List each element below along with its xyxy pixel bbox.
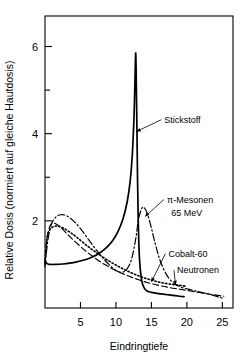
y-tick-label: 4 [32, 128, 38, 140]
annotation-label: π-Mesonen [167, 195, 213, 205]
y-axis-title: Relative Dosis (normiert auf gleiche Hau… [3, 61, 15, 280]
dose-depth-chart: 510152025 246 Stickstoffπ-Mesonen65 MeVC… [0, 0, 248, 362]
x-tick-label: 10 [110, 316, 122, 328]
annotation-label: Stickstoff [164, 115, 201, 125]
x-tick-label: 5 [77, 316, 83, 328]
x-tick-label: 20 [181, 316, 193, 328]
annotation-label: Neutronen [177, 265, 219, 275]
x-axis-title: Eindringtiefe [110, 340, 169, 352]
y-tick-label: 6 [32, 41, 38, 53]
x-tick-label: 25 [216, 316, 228, 328]
chart-figure: 510152025 246 Stickstoffπ-Mesonen65 MeVC… [0, 0, 248, 362]
x-tick-label: 15 [145, 316, 157, 328]
y-tick-label: 2 [32, 215, 38, 227]
annotation-label: Cobalt-60 [168, 249, 207, 259]
annotation-label: 65 MeV [171, 208, 202, 218]
